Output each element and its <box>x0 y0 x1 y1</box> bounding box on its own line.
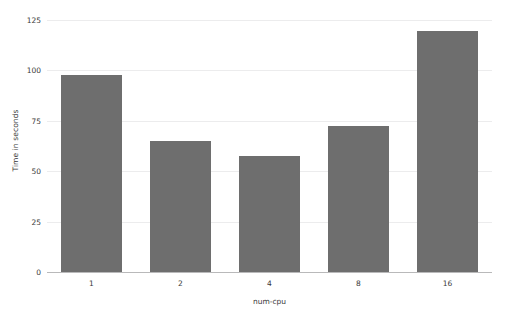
bar <box>61 75 122 272</box>
y-axis-title: Time in seconds <box>6 0 24 280</box>
y-axis-title-text: Time in seconds <box>11 109 20 171</box>
x-axis-tick-label: 16 <box>443 279 453 288</box>
x-axis-line <box>47 272 492 273</box>
x-axis-tick-label: 1 <box>89 279 94 288</box>
y-axis-tick-label: 125 <box>27 16 41 25</box>
y-axis-tick-label: 0 <box>36 268 41 277</box>
bar <box>150 141 211 272</box>
x-axis-tick-label: 4 <box>267 279 272 288</box>
y-axis-tick-label: 100 <box>27 66 41 75</box>
y-axis-tick-label: 75 <box>31 116 41 125</box>
gridline <box>47 20 492 21</box>
bar <box>417 31 478 272</box>
y-axis-tick-label: 50 <box>31 167 41 176</box>
x-axis-tick-label: 8 <box>356 279 361 288</box>
y-axis-tick-label: 25 <box>31 217 41 226</box>
bar-chart-figure: Time in seconds 0255075100125124816 num-… <box>0 0 505 322</box>
bar <box>239 156 300 272</box>
x-axis-tick-label: 2 <box>178 279 183 288</box>
x-axis-title: num-cpu <box>47 297 492 306</box>
plot-area: 0255075100125124816 <box>47 20 492 272</box>
bar <box>328 126 389 272</box>
